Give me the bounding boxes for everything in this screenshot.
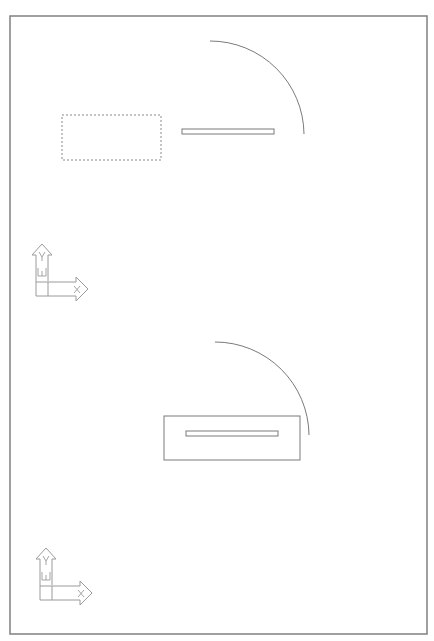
door-swing-arc[interactable]: [215, 342, 309, 435]
top-view: [32, 41, 304, 301]
dashed-rectangle[interactable]: [62, 115, 161, 160]
slot-rectangle[interactable]: [182, 129, 274, 134]
door-swing-arc[interactable]: [210, 41, 304, 134]
slot-rectangle[interactable]: [186, 431, 278, 436]
ucs-w-label: [38, 268, 46, 276]
ucs-x-arrow-icon: [40, 581, 92, 605]
ucs-x-label: [74, 286, 80, 293]
ucs-x-arrow-icon: [36, 277, 88, 301]
ucs-icon: [32, 244, 88, 301]
ucs-w-label: [42, 572, 50, 580]
ucs-y-label: [39, 252, 45, 261]
bottom-view: [36, 342, 309, 605]
ucs-x-label: [78, 590, 84, 597]
ucs-icon: [36, 548, 92, 605]
ucs-y-label: [43, 556, 49, 565]
outer-rectangle[interactable]: [164, 416, 300, 460]
drawing-frame: [10, 16, 427, 634]
cad-drawing-canvas[interactable]: [0, 0, 434, 641]
